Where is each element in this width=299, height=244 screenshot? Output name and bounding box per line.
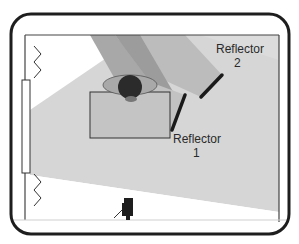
subject-head	[118, 75, 142, 99]
reflector-2-label-line2: 2	[234, 56, 241, 70]
subject-face	[125, 96, 137, 102]
window	[22, 80, 30, 173]
reflector-2-label-line1: Reflector	[216, 42, 264, 56]
lighting-diagram: Reflector 2 Reflector 1	[0, 0, 299, 244]
reflector-1-label-line1: Reflector	[173, 132, 221, 146]
reflector-1-label-line2: 1	[193, 146, 200, 160]
